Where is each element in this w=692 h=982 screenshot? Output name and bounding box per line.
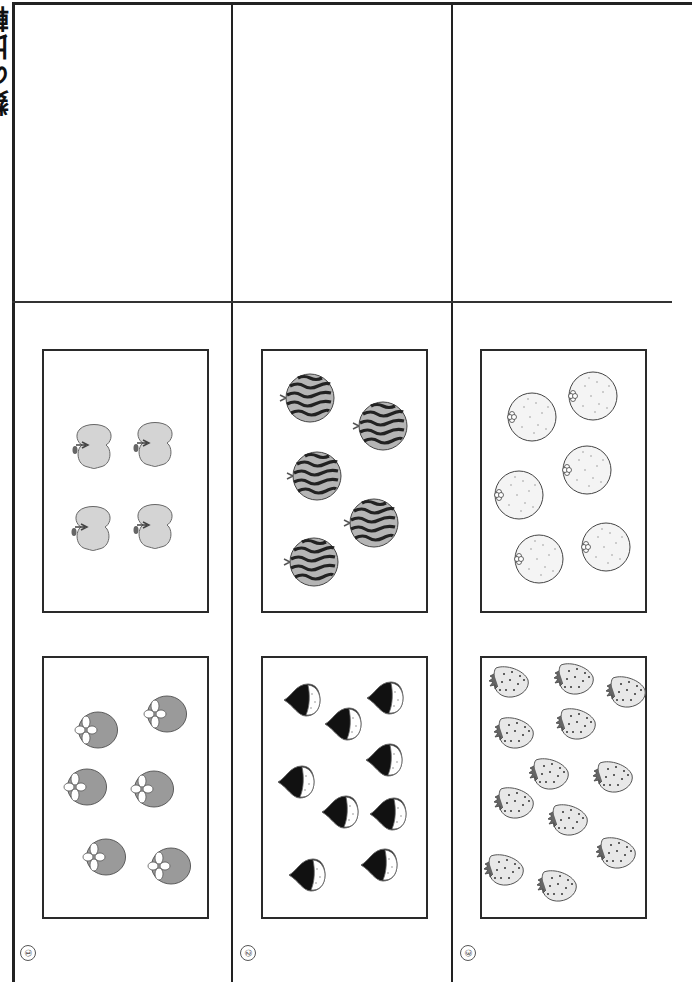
chestnut-icon bbox=[278, 682, 406, 891]
strawberry-icon bbox=[484, 664, 645, 901]
question-number-2: ② bbox=[240, 945, 256, 961]
watermelon-icon bbox=[280, 374, 407, 586]
persimmon-icon bbox=[64, 696, 191, 884]
question-number-1: ① bbox=[20, 945, 36, 961]
apple-icon bbox=[72, 423, 173, 551]
orange-icon bbox=[495, 372, 631, 583]
question-number-3: ③ bbox=[460, 945, 476, 961]
